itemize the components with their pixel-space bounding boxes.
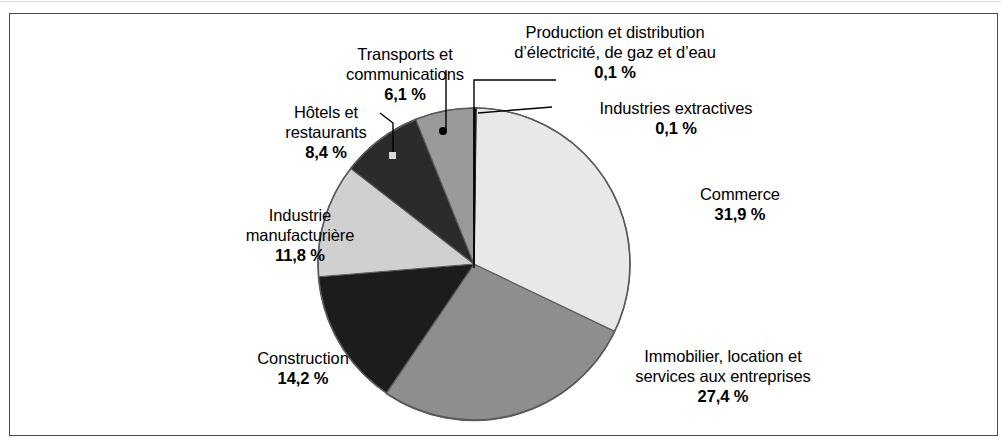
slice-label-commerce-line1: Commerce: [640, 184, 840, 204]
slice-label-industrie-manufacturiere-line2: manufacturière: [190, 225, 410, 245]
slice-label-production-line1: Production et distribution: [470, 22, 760, 42]
slice-label-hotels-line1: Hôtels et: [268, 102, 384, 122]
slice-value-industrie-manufacturiere: 11,8 %: [190, 245, 410, 265]
slice-label-construction: Construction 14,2 %: [218, 348, 388, 388]
slice-value-transports: 6,1 %: [330, 84, 480, 104]
slice-label-construction-line1: Construction: [218, 348, 388, 368]
slice-label-hotels-restaurants: Hôtels et restaurants 8,4 %: [268, 102, 384, 162]
slice-label-industrie-manufacturiere-line1: Industrie: [190, 205, 410, 225]
slice-label-industries-extractives-line1: Industries extractives: [556, 98, 796, 118]
slice-label-industrie-manufacturiere: Industrie manufacturière 11,8 %: [190, 205, 410, 265]
slice-label-commerce: Commerce 31,9 %: [640, 184, 840, 224]
slice-label-immobilier-line1: Immobilier, location et: [598, 346, 848, 366]
figure-container: Production et distribution d’électricité…: [0, 0, 1001, 447]
slice-label-transports-communications: Transports et communications 6,1 %: [330, 44, 480, 104]
slice-label-transports-line2: communications: [330, 64, 480, 84]
slice-label-hotels-line2: restaurants: [268, 122, 384, 142]
slice-label-immobilier: Immobilier, location et services aux ent…: [598, 346, 848, 406]
slice-label-immobilier-line2: services aux entreprises: [598, 366, 848, 386]
slice-value-hotels: 8,4 %: [268, 142, 384, 162]
slice-value-industries-extractives: 0,1 %: [556, 118, 796, 138]
slice-label-production-line2: d’électricité, de gaz et d’eau: [470, 42, 760, 62]
slice-label-production-electricite-gaz-eau: Production et distribution d’électricité…: [470, 22, 760, 82]
slice-label-transports-line1: Transports et: [330, 44, 480, 64]
slice-value-immobilier: 27,4 %: [598, 386, 848, 406]
leader-dot-hotels: [389, 152, 396, 159]
slice-value-construction: 14,2 %: [218, 368, 388, 388]
slice-label-industries-extractives: Industries extractives 0,1 %: [556, 98, 796, 138]
leader-dot-transports: [439, 127, 447, 135]
slice-value-production: 0,1 %: [470, 62, 760, 82]
slice-value-commerce: 31,9 %: [640, 204, 840, 224]
